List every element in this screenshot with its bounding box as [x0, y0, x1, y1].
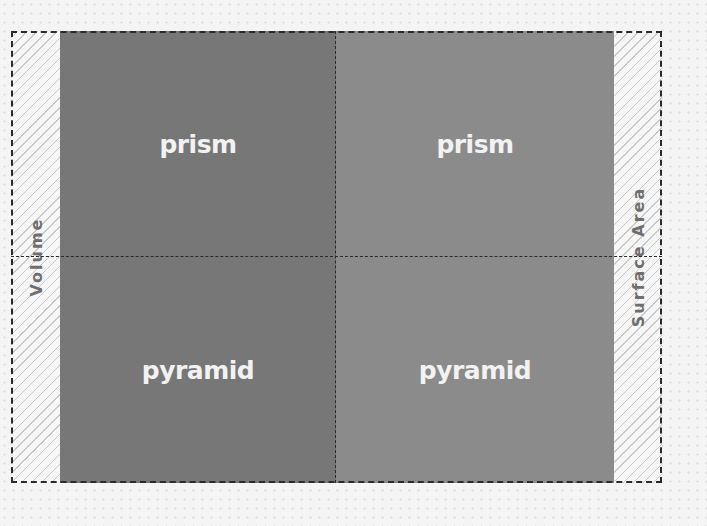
cell-top-left: prism — [60, 31, 336, 257]
diagram-frame: Volume Surface Area prism prism pyramid … — [11, 31, 662, 483]
left-axis-strip: Volume — [11, 31, 60, 483]
vertical-divider — [335, 31, 336, 483]
cell-label: prism — [436, 130, 513, 159]
cell-top-right: prism — [336, 31, 614, 257]
cell-bottom-right: pyramid — [336, 257, 614, 483]
cell-label: pyramid — [419, 356, 531, 385]
right-axis-strip: Surface Area — [614, 31, 662, 483]
horizontal-divider — [11, 256, 662, 257]
volume-label: Volume — [26, 218, 45, 297]
cell-label: prism — [159, 130, 236, 159]
cell-label: pyramid — [142, 356, 254, 385]
cell-bottom-left: pyramid — [60, 257, 336, 483]
surface-area-label: Surface Area — [629, 187, 648, 327]
